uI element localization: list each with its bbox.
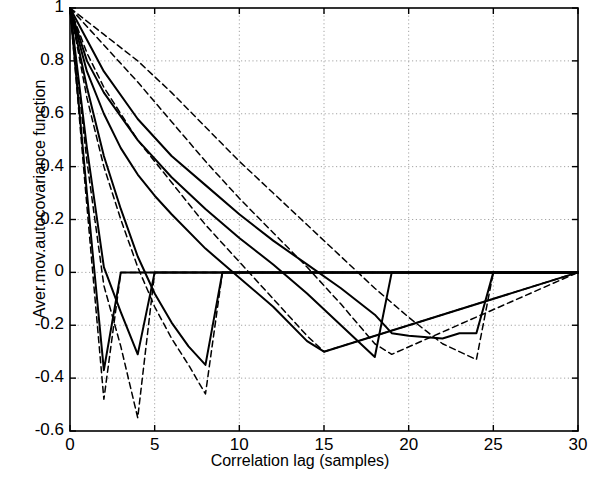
series-dashed-5 (70, 8, 578, 354)
grid-layer (70, 8, 578, 431)
x-axis-title: Correlation lag (samples) (0, 452, 600, 470)
figure-container: -0.6-0.4-0.200.20.40.60.81 051015202530 … (0, 0, 600, 484)
y-axis-title: Aver.mov.autocovariance function (31, 9, 49, 389)
chart-plot (0, 0, 600, 484)
series-solid-2 (70, 8, 578, 354)
